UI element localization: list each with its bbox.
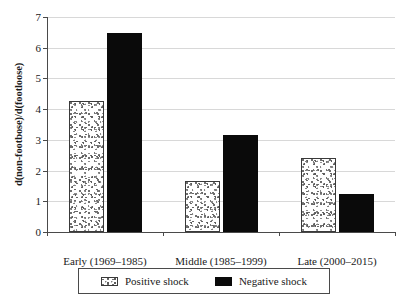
- y-tick-mark: [43, 171, 47, 172]
- y-tick-label: 0: [36, 227, 42, 238]
- stipple-swatch-icon: [101, 277, 118, 286]
- bar-positive-1[interactable]: [185, 181, 220, 232]
- y-tick-label: 5: [36, 73, 42, 84]
- y-axis-title: d(non-footbose)/d(footloose): [6, 17, 32, 232]
- y-tick-mark: [43, 78, 47, 79]
- x-tick-mark: [163, 232, 164, 236]
- x-tick-mark: [279, 232, 280, 236]
- bar-positive-2[interactable]: [301, 158, 336, 232]
- y-tick-mark: [43, 140, 47, 141]
- x-axis-line: [47, 232, 395, 233]
- y-axis-line: [47, 17, 48, 232]
- y-tick-label: 6: [36, 42, 42, 53]
- solid-black-swatch-icon: [215, 277, 232, 286]
- y-tick-label: 2: [36, 165, 42, 176]
- y-tick-mark: [43, 17, 47, 18]
- y-tick-label: 4: [36, 104, 42, 115]
- legend-item-positive-shock[interactable]: Positive shock: [101, 275, 189, 287]
- x-category-label-1: Middle (1985–1999): [175, 255, 266, 267]
- x-tick-mark: [47, 232, 48, 236]
- y-axis-title-text: d(non-footbose)/d(footloose): [14, 63, 25, 186]
- plot-area: 01234567 Early (1969–1985)Middle (1985–1…: [47, 17, 395, 232]
- gridline: [48, 17, 395, 18]
- bar-negative-1[interactable]: [223, 135, 258, 232]
- y-tick-label: 1: [36, 196, 42, 207]
- y-tick-label: 7: [36, 12, 42, 23]
- legend-item-negative-shock[interactable]: Negative shock: [215, 275, 307, 287]
- y-tick-mark: [43, 109, 47, 110]
- bar-negative-0[interactable]: [107, 33, 142, 232]
- bar-negative-2[interactable]: [339, 194, 374, 232]
- x-tick-mark: [395, 232, 396, 236]
- gridline: [48, 48, 395, 49]
- bar-positive-0[interactable]: [69, 101, 104, 232]
- y-tick-mark: [43, 201, 47, 202]
- x-category-label-0: Early (1969–1985): [63, 255, 146, 267]
- legend-label-negative: Negative shock: [239, 275, 307, 287]
- chart-legend: Positive shock Negative shock: [78, 268, 330, 294]
- y-tick-mark: [43, 48, 47, 49]
- legend-label-positive: Positive shock: [125, 275, 189, 287]
- bar-chart-figure: d(non-footbose)/d(footloose) 01234567 Ea…: [0, 0, 407, 304]
- gridline: [48, 78, 395, 79]
- y-tick-label: 3: [36, 134, 42, 145]
- x-category-label-2: Late (2000–2015): [297, 255, 376, 267]
